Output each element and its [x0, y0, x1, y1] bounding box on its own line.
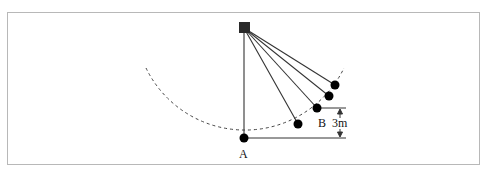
string-4 [244, 28, 329, 96]
ball-2 [294, 120, 303, 129]
balls [240, 81, 340, 143]
pivot-block [239, 22, 250, 33]
label-a: A [239, 147, 248, 161]
pendulum-diagram: 3m A B [0, 0, 487, 174]
label-b: B [318, 116, 326, 130]
string-b [244, 28, 317, 108]
ball-b [313, 104, 322, 113]
ball-5 [331, 81, 340, 90]
swing-arc [146, 68, 344, 130]
string-5 [244, 28, 335, 85]
string-2 [244, 28, 298, 124]
ball-4 [325, 92, 334, 101]
height-label: 3m [332, 116, 348, 130]
ball-a [240, 134, 249, 143]
